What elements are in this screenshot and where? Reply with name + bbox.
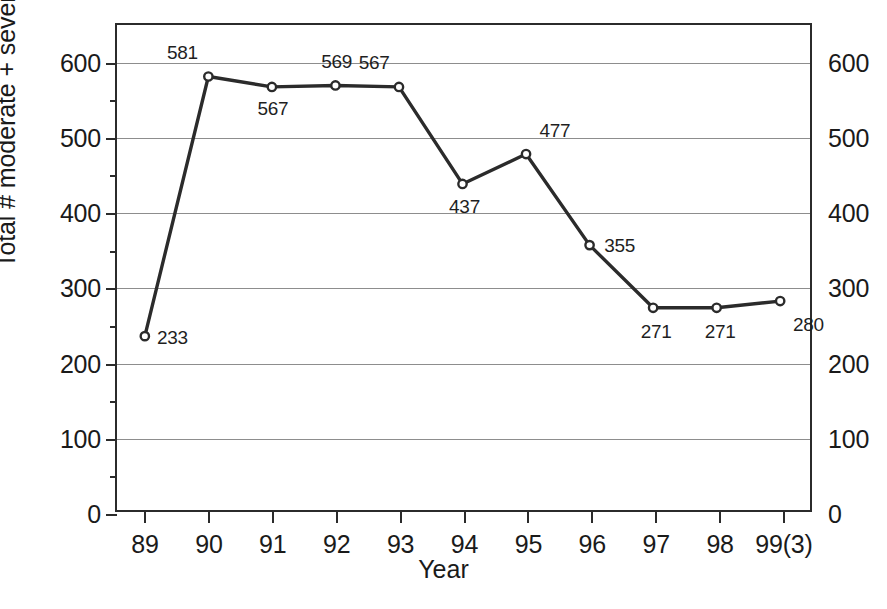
x-tick (719, 510, 721, 523)
data-point-marker (395, 83, 403, 91)
y-tick-major (106, 514, 117, 516)
plot-area: 0100200300400500600 0100200300400500600 … (115, 23, 812, 512)
data-point-marker (585, 241, 593, 249)
y-axis-tick-label-left: 200 (60, 349, 101, 378)
data-point-marker (649, 304, 657, 312)
y-axis-tick-label-right: 600 (828, 48, 869, 77)
y-tick-major (106, 439, 117, 441)
data-point-value-label: 271 (641, 321, 672, 343)
y-axis-tick-label-right: 200 (828, 349, 869, 378)
y-axis-title: Total # moderate + severe ADEs (0, 0, 21, 268)
y-tick-major (106, 138, 117, 140)
y-axis-tick-label-right: 500 (828, 123, 869, 152)
y-axis-tick-label-right: 0 (828, 500, 842, 529)
x-tick (527, 510, 529, 523)
x-tick (464, 510, 466, 523)
data-point-marker (331, 81, 339, 89)
y-axis-tick-label-right: 100 (828, 424, 869, 453)
y-tick-major (106, 364, 117, 366)
y-axis-tick-label-left: 400 (60, 199, 101, 228)
data-point-marker (141, 332, 149, 340)
x-tick (208, 510, 210, 523)
data-point-value-label: 567 (359, 52, 390, 74)
x-axis-title: Year (0, 555, 887, 584)
x-tick (591, 510, 593, 523)
x-tick (272, 510, 274, 523)
x-tick (336, 510, 338, 523)
x-tick (400, 510, 402, 523)
y-tick-minor (110, 175, 117, 177)
data-point-value-label: 477 (539, 120, 570, 142)
y-tick-minor (110, 251, 117, 253)
data-point-value-label: 437 (449, 196, 480, 218)
y-axis-tick-label-left: 300 (60, 274, 101, 303)
data-point-value-label: 233 (157, 327, 188, 349)
data-point-marker (522, 150, 530, 158)
data-point-value-label: 569 (321, 51, 352, 73)
y-tick-minor (110, 401, 117, 403)
x-tick (783, 510, 785, 523)
data-point-value-label: 581 (167, 42, 198, 64)
data-point-value-label: 280 (793, 314, 824, 336)
y-axis-tick-label-left: 0 (87, 500, 101, 529)
y-axis-tick-label-right: 300 (828, 274, 869, 303)
data-point-marker (712, 304, 720, 312)
x-tick (144, 510, 146, 523)
y-tick-minor (110, 100, 117, 102)
y-axis-tick-label-left: 100 (60, 424, 101, 453)
y-tick-major (106, 213, 117, 215)
chart-figure: Total # moderate + severe ADEs 010020030… (0, 0, 887, 609)
x-tick (655, 510, 657, 523)
data-point-value-label: 567 (257, 98, 288, 120)
y-axis-tick-label-left: 500 (60, 123, 101, 152)
y-tick-minor (110, 326, 117, 328)
data-series-line (117, 25, 810, 510)
y-axis-tick-label-left: 600 (60, 48, 101, 77)
y-tick-major (106, 288, 117, 290)
data-point-marker (268, 83, 276, 91)
data-point-marker (458, 180, 466, 188)
data-point-value-label: 271 (705, 321, 736, 343)
data-point-marker (776, 297, 784, 305)
data-point-value-label: 355 (604, 235, 635, 257)
y-tick-major (106, 63, 117, 65)
y-axis-tick-label-right: 400 (828, 199, 869, 228)
data-point-marker (204, 72, 212, 80)
y-tick-minor (110, 476, 117, 478)
